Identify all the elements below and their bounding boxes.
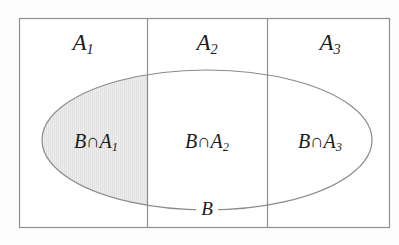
venn-partition-diagram: A1 A2 A3 B∩A1 B∩A2 B∩A3 B [0,0,399,245]
label-intersection-b-a2: B∩A2 [185,130,229,154]
diagram-canvas: A1 A2 A3 B∩A1 B∩A2 B∩A3 B [0,0,399,245]
label-intersection-b-a1: B∩A1 [74,130,118,154]
label-event-b: B [201,198,213,219]
label-intersection-b-a3: B∩A3 [298,130,342,154]
